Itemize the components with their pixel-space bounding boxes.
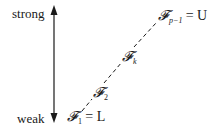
script-f-symbol: 𝓕: [158, 7, 168, 23]
subscript: p−1: [169, 16, 182, 25]
subscript: 2: [104, 93, 108, 102]
arrow-down-icon: [51, 113, 58, 123]
chain-item-f1: 𝓕1 = L: [67, 109, 105, 126]
chain-item-f2: 𝓕2: [93, 85, 108, 102]
script-f-symbol: 𝓕: [122, 48, 132, 64]
chain-item-fp-1: 𝓕p−1 = U: [158, 8, 207, 25]
script-f-symbol: 𝓕: [93, 84, 103, 100]
arrow-up-icon: [51, 5, 58, 15]
subscript: 1: [78, 117, 82, 126]
script-f-symbol: 𝓕: [67, 108, 77, 124]
strength-arrow: [51, 5, 58, 123]
subscript: k: [133, 57, 137, 66]
equals-value: = U: [186, 8, 208, 23]
chain-item-fk: 𝓕k: [122, 49, 137, 66]
equals-value: = L: [85, 109, 105, 124]
weak-label: weak: [17, 112, 44, 125]
strong-label: strong: [12, 7, 45, 20]
